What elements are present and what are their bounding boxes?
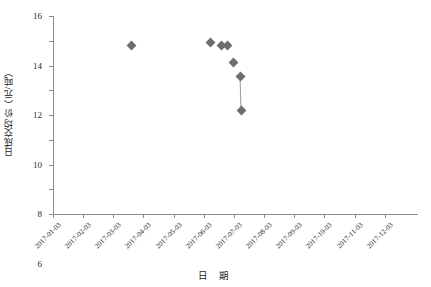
plot-area: 0246810121416 2017-01-032017-02-032017-0… <box>53 16 418 215</box>
y-tick-label: 12 <box>33 111 42 120</box>
chart-screenshot: 日成交均价（元/吨） 0246810121416 2017-01-032017-… <box>0 0 431 287</box>
y-tick-label: 6 <box>38 259 43 268</box>
x-tick-label: 2017-06-03 <box>184 221 213 250</box>
x-tick-label: 2017-11-03 <box>335 221 364 250</box>
x-tick-label: 2017-04-03 <box>124 221 153 250</box>
y-tick-label: 14 <box>33 61 42 70</box>
y-axis-title: 日成交均价（元/吨） <box>2 52 15 172</box>
x-axis-title: 日 期 <box>0 268 431 282</box>
x-tick-label: 2017-12-03 <box>365 221 394 250</box>
x-tick-label: 2017-02-03 <box>63 221 92 250</box>
x-tick-label: 2017-08-03 <box>244 221 273 250</box>
y-tick-label: 10 <box>33 160 42 169</box>
x-tick-label: 2017-07-03 <box>214 221 243 250</box>
x-tick-label: 2017-10-03 <box>305 221 334 250</box>
x-tick-label: 2017-05-03 <box>154 221 183 250</box>
y-tick-label: 8 <box>38 210 43 219</box>
series-connector-line <box>53 16 418 215</box>
x-tick-label: 2017-01-03 <box>33 221 62 250</box>
x-tick-label: 2017-09-03 <box>275 221 304 250</box>
y-tick-label: 16 <box>33 12 42 21</box>
x-tick-label: 2017-03-03 <box>94 221 123 250</box>
